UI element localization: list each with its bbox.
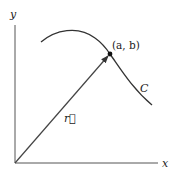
- position-vector-diagram: y x (a, b) C r⃗: [0, 0, 174, 173]
- y-axis-label: y: [9, 8, 17, 21]
- vector-r: [15, 56, 108, 163]
- x-axis-label: x: [162, 157, 169, 170]
- vector-r-label: r⃗: [64, 112, 76, 125]
- point-ab: [108, 52, 113, 57]
- point-ab-label: (a, b): [112, 39, 140, 51]
- curve-c-label: C: [140, 82, 149, 95]
